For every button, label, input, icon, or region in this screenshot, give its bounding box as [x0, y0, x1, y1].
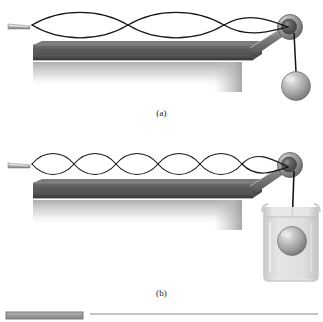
footer-marks [6, 312, 318, 319]
hanging-string-a [294, 33, 296, 72]
vibrating-string-b [32, 154, 288, 175]
bench-shadow-b [33, 200, 242, 230]
footer-swatch [6, 312, 83, 319]
pulley-wheel-a[interactable] [278, 15, 303, 40]
panel-a-caption: (a) [0, 108, 323, 118]
physics-figure: (a) (b) [0, 0, 323, 322]
lab-bench-a [33, 41, 262, 60]
lab-bench-b [33, 179, 262, 198]
vibrator-tip-b[interactable] [8, 163, 30, 168]
pulley-wheel-b[interactable] [278, 153, 303, 178]
panel-b-caption: (b) [0, 288, 323, 298]
spherical-mass-a[interactable] [282, 72, 311, 101]
spherical-mass-b[interactable] [278, 227, 307, 256]
panel-b [8, 153, 320, 282]
figure-canvas [0, 0, 323, 322]
vibrating-string-a [32, 12, 288, 38]
panel-a [8, 12, 311, 100]
vibrator-tip-a[interactable] [8, 24, 30, 29]
bench-shadow-a [33, 62, 242, 92]
